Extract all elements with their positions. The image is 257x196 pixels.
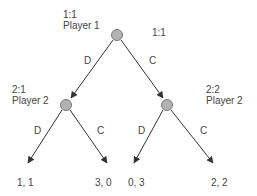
- edge-label-root-C: C: [149, 56, 156, 66]
- right-player-label: Player 2: [206, 95, 243, 106]
- left-player-label: Player 2: [12, 95, 49, 106]
- payoff-DD: 1, 1: [17, 177, 34, 188]
- edge-root-D: [71, 40, 113, 98]
- edge-root-C: [121, 40, 163, 98]
- edge-label-left-C: C: [97, 126, 104, 136]
- right-id-label: 2:2: [206, 84, 243, 95]
- root-player-label: Player 1: [63, 20, 100, 31]
- left-node-label: 2:1 Player 2: [12, 84, 49, 106]
- payoff-DC: 3, 0: [95, 177, 112, 188]
- edge-label-left-D: D: [34, 126, 41, 136]
- edge-label-right-C: C: [200, 126, 207, 136]
- left-id-label: 2:1: [12, 84, 49, 95]
- edge-right-C: [171, 110, 213, 163]
- edge-right-D: [134, 110, 163, 163]
- root-extra-label: 1:1: [152, 27, 166, 38]
- edge-left-C: [70, 110, 107, 163]
- edge-label-root-D: D: [84, 56, 91, 66]
- node-left: [61, 100, 72, 111]
- edge-left-D: [28, 110, 62, 163]
- edge-label-right-D: D: [138, 126, 145, 136]
- node-right: [162, 100, 173, 111]
- root-node-label: 1:1 Player 1: [63, 9, 100, 31]
- root-id-label: 1:1: [63, 9, 100, 20]
- right-node-label: 2:2 Player 2: [206, 84, 243, 106]
- node-root: [112, 30, 123, 41]
- payoff-CD: 0, 3: [128, 177, 145, 188]
- payoff-CC: 2, 2: [211, 177, 228, 188]
